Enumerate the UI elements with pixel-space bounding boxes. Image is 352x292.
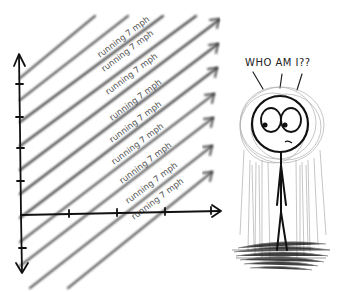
line-6 [20,44,218,194]
y-axis [19,55,22,272]
stick-figure: WHO AM I?? [232,57,330,270]
line-10 [30,146,212,288]
line-7 [20,68,217,218]
line-labels: running 7 mph running 7 mph running 7 mp… [95,14,185,222]
speech-text: WHO AM I?? [245,57,311,68]
left-eye [261,108,281,132]
right-eye [281,108,301,132]
ground-shadow [232,242,330,270]
x-axis [21,211,220,215]
line-1 [20,16,95,78]
comic-panel: running 7 mph running 7 mph running 7 mp… [0,0,352,292]
